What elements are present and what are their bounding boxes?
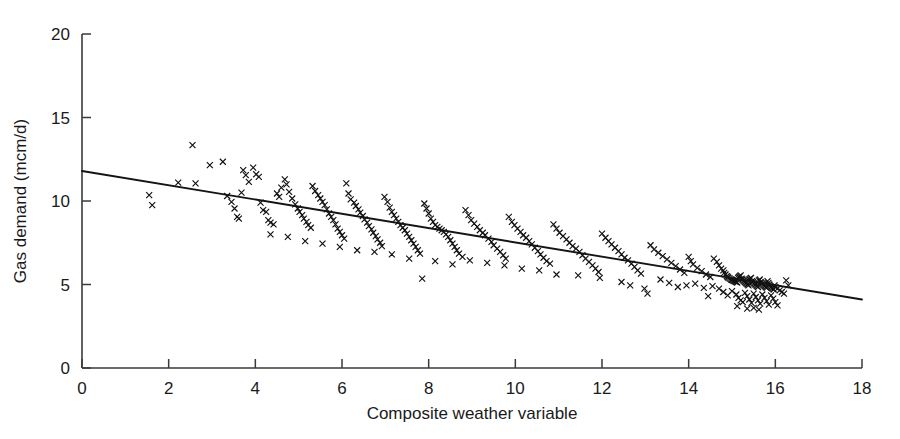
x-tick-label: 4 <box>251 379 260 398</box>
x-tick-label: 18 <box>853 379 872 398</box>
x-tick-label: 10 <box>506 379 525 398</box>
x-tick-label: 0 <box>77 379 86 398</box>
x-tick-label: 12 <box>593 379 612 398</box>
y-tick-label: 10 <box>51 192 70 211</box>
y-axis-title: Gas demand (mcm/d) <box>11 119 30 283</box>
gas-demand-scatter-figure: 05101520 024681012141618 Composite weath… <box>0 0 900 439</box>
x-tick-label: 16 <box>766 379 785 398</box>
y-tick-label: 0 <box>61 359 70 378</box>
x-tick-label: 8 <box>424 379 433 398</box>
chart-canvas: 05101520 024681012141618 Composite weath… <box>0 0 900 439</box>
y-tick-label: 20 <box>51 25 70 44</box>
x-tick-label: 2 <box>164 379 173 398</box>
y-tick-label: 15 <box>51 109 70 128</box>
figure-background <box>0 0 900 439</box>
x-tick-label: 6 <box>337 379 346 398</box>
y-tick-label: 5 <box>61 276 70 295</box>
x-axis-title: Composite weather variable <box>367 404 578 423</box>
x-tick-label: 14 <box>679 379 698 398</box>
